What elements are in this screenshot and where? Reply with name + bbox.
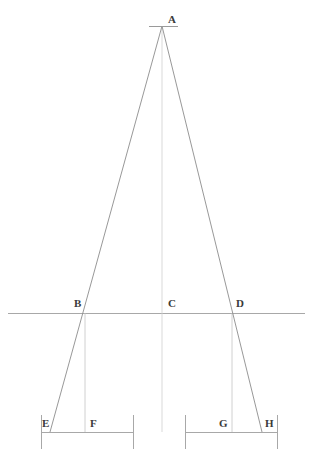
point-label-g: G bbox=[219, 418, 228, 429]
diagram-canvas bbox=[0, 0, 317, 455]
point-label-a: A bbox=[168, 14, 176, 25]
geometry-diagram: A B C D E F G H bbox=[0, 0, 317, 455]
point-label-c: C bbox=[168, 298, 176, 309]
dimension-right bbox=[185, 415, 277, 449]
point-label-d: D bbox=[236, 298, 244, 309]
point-label-e: E bbox=[42, 418, 49, 429]
ray-right bbox=[162, 26, 262, 432]
dimension-left bbox=[41, 415, 133, 449]
point-label-b: B bbox=[74, 298, 81, 309]
point-label-f: F bbox=[90, 418, 97, 429]
ray-left bbox=[50, 26, 162, 432]
point-label-h: H bbox=[265, 418, 274, 429]
